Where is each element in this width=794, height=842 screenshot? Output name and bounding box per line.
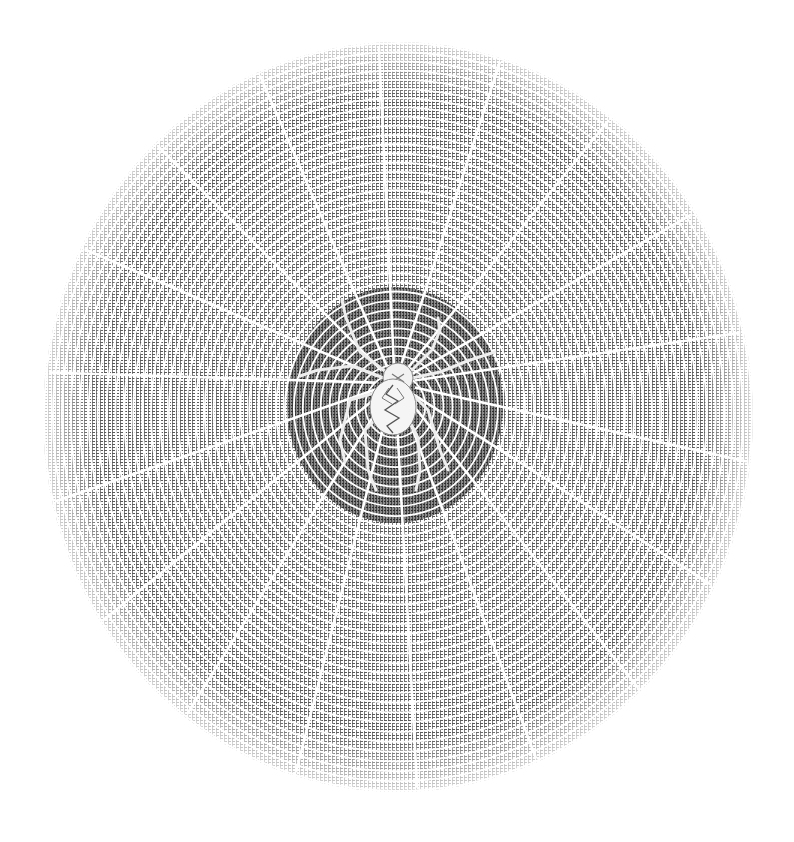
engraving-illustration (0, 0, 794, 842)
spider-abdomen (370, 379, 416, 435)
spider-web-artwork (0, 0, 794, 842)
